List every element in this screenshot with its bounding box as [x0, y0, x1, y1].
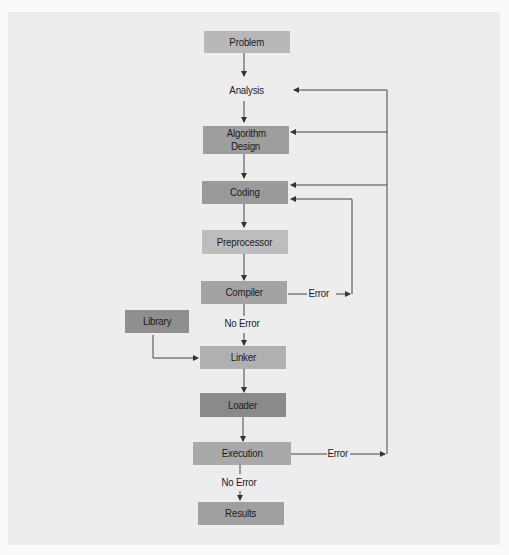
node-library-label: Library	[143, 315, 171, 328]
node-execution-label: Execution	[222, 447, 263, 460]
node-linker-label: Linker	[230, 351, 255, 364]
node-algorithm-design: Algorithm Design	[203, 126, 289, 154]
node-algorithm-design-line2: Design	[231, 140, 260, 153]
node-analysis-label: Analysis	[230, 84, 265, 97]
node-compiler: Compiler	[201, 281, 287, 304]
node-coding-label: Coding	[230, 186, 260, 199]
node-linker: Linker	[200, 346, 286, 369]
edge-label-execution-error: Error	[326, 447, 349, 459]
node-library: Library	[125, 310, 189, 333]
node-loader-label: Loader	[228, 399, 257, 412]
node-problem: Problem	[204, 31, 290, 53]
node-results: Results	[198, 502, 284, 525]
node-execution: Execution	[193, 442, 291, 465]
node-analysis: Analysis	[204, 80, 290, 101]
edge-label-execution-no-error: No Error	[219, 476, 259, 488]
node-preprocessor-label: Preprocessor	[217, 236, 272, 249]
edge-label-compiler-no-error: No Error	[222, 317, 262, 329]
node-algorithm-design-line1: Algorithm	[226, 127, 265, 140]
node-results-label: Results	[225, 507, 256, 520]
node-loader: Loader	[200, 393, 286, 417]
node-compiler-label: Compiler	[225, 286, 262, 299]
node-coding: Coding	[202, 181, 288, 204]
edge-label-compiler-error: Error	[307, 287, 330, 299]
node-problem-label: Problem	[230, 36, 265, 49]
node-preprocessor: Preprocessor	[202, 230, 288, 254]
